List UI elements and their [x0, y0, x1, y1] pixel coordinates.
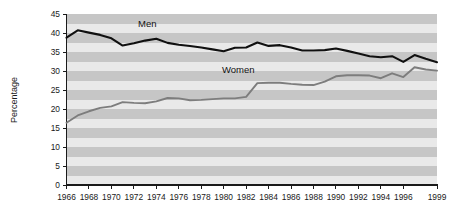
- y-tick-label: 35: [51, 47, 61, 57]
- plot-background-stripes: [67, 14, 438, 185]
- y-tick-label: 25: [51, 85, 61, 95]
- y-tick-label: 0: [55, 180, 60, 190]
- x-tick-label: 1978: [192, 192, 211, 202]
- x-tick-label: 1984: [259, 192, 278, 202]
- y-tick-label: 40: [51, 28, 61, 38]
- x-tick-label: 1974: [147, 192, 166, 202]
- x-tick-label: 1992: [349, 192, 368, 202]
- x-axis: [67, 185, 439, 189]
- x-tick-label: 1970: [102, 192, 121, 202]
- x-tick-label: 1972: [125, 192, 144, 202]
- x-tick-label: 1980: [214, 192, 233, 202]
- y-tick-label: 30: [51, 66, 61, 76]
- chart-container: 051015202530354045 196619681970197219741…: [0, 0, 465, 213]
- y-axis: [63, 14, 67, 185]
- x-tick-label: 1976: [169, 192, 188, 202]
- x-tick-label: 1966: [57, 192, 76, 202]
- y-tick-label: 15: [51, 123, 61, 133]
- y-tick-labels: 051015202530354045: [51, 9, 61, 190]
- x-tick-label: 1982: [237, 192, 256, 202]
- x-tick-label: 1990: [327, 192, 346, 202]
- series-label-men: Men: [138, 18, 156, 29]
- x-tick-label: 1988: [304, 192, 323, 202]
- x-tick-labels: 1966196819701972197419761978198019821984…: [57, 192, 446, 202]
- x-tick-label: 1968: [80, 192, 99, 202]
- x-tick-label: 1996: [394, 192, 413, 202]
- y-tick-label: 45: [51, 9, 61, 19]
- x-tick-label: 1986: [282, 192, 301, 202]
- y-axis-title: Percentage: [9, 77, 19, 123]
- x-tick-label: 1994: [372, 192, 391, 202]
- line-chart: 051015202530354045 196619681970197219741…: [0, 0, 465, 213]
- y-tick-label: 5: [55, 161, 60, 171]
- y-tick-label: 10: [51, 142, 61, 152]
- y-tick-label: 20: [51, 104, 61, 114]
- series-label-women: Women: [222, 64, 255, 75]
- x-tick-label: 1999: [428, 192, 447, 202]
